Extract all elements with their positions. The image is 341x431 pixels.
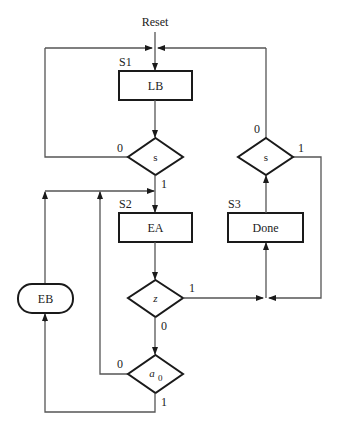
decision-s-right-0: 0 — [254, 122, 260, 136]
decision-a0-0: 0 — [117, 357, 123, 371]
conditional-output-eb-label: EB — [38, 292, 53, 306]
decision-a0 — [128, 355, 183, 393]
decision-s-left-0: 0 — [117, 141, 123, 155]
decision-z-1: 1 — [189, 281, 195, 295]
decision-a0-subscript: 0 — [158, 373, 163, 383]
asm-chart: Reset S1 LB s 0 1 S2 EA z 1 0 S3 — [0, 0, 341, 431]
state-s2-action: EA — [148, 221, 164, 235]
decision-z-0: 0 — [161, 319, 167, 333]
state-s1-name: S1 — [119, 55, 132, 69]
decision-s-right-cond: s — [264, 151, 268, 163]
decision-z-cond: z — [152, 292, 158, 304]
decision-s-left-1: 1 — [161, 177, 167, 191]
s-left-zero-wire — [45, 48, 128, 157]
decision-s-right-1: 1 — [298, 141, 304, 155]
reset-label: Reset — [142, 15, 169, 29]
state-s3-action: Done — [253, 221, 279, 235]
state-s1-action: LB — [148, 79, 163, 93]
state-s3-name: S3 — [228, 197, 241, 211]
decision-a0-cond: a — [149, 367, 155, 379]
decision-s-left-cond: s — [153, 151, 157, 163]
state-s2-name: S2 — [119, 197, 132, 211]
decision-a0-1: 1 — [161, 395, 167, 409]
